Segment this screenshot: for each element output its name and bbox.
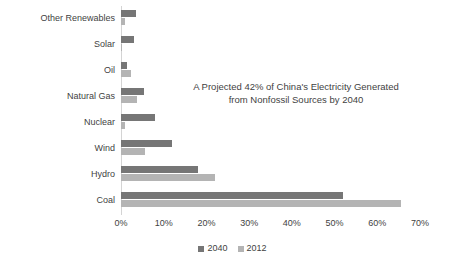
bar-2012 — [121, 96, 137, 103]
category-label: Nuclear — [0, 117, 115, 128]
bar-chart: Other Renewables Solar Oil Natural Gas N… — [0, 0, 465, 266]
legend-item-2012: 2012 — [238, 243, 267, 254]
legend-label: 2040 — [207, 243, 227, 254]
bar-2012 — [121, 122, 125, 129]
x-tick-label: 0% — [114, 218, 127, 229]
category-label: Natural Gas — [0, 91, 115, 102]
legend-swatch-icon — [198, 246, 204, 252]
chart-legend: 2040 2012 — [0, 243, 465, 254]
category-label: Solar — [0, 39, 115, 50]
x-tick-label: 30% — [240, 218, 258, 229]
x-tick-label: 70% — [411, 218, 429, 229]
bar-2040 — [121, 88, 144, 95]
bar-2040 — [121, 192, 343, 199]
bar-2040 — [121, 114, 155, 121]
plot-area — [121, 6, 420, 214]
legend-swatch-icon — [238, 246, 244, 252]
category-label: Coal — [0, 195, 115, 206]
category-axis: Other Renewables Solar Oil Natural Gas N… — [0, 6, 115, 214]
bar-2040 — [121, 62, 127, 69]
category-label: Oil — [0, 65, 115, 76]
bar-2012 — [121, 70, 131, 77]
bar-2012 — [121, 148, 145, 155]
bar-2012 — [121, 174, 215, 181]
annotation-line-2: from Nonfossil Sources by 2040 — [178, 93, 414, 106]
x-tick-label: 10% — [155, 218, 173, 229]
x-tick-label: 40% — [283, 218, 301, 229]
category-label: Wind — [0, 143, 115, 154]
bar-2012 — [121, 200, 401, 207]
legend-label: 2012 — [247, 243, 267, 254]
bar-2012 — [121, 44, 122, 51]
legend-item-2040: 2040 — [198, 243, 227, 254]
x-tick-label: 50% — [326, 218, 344, 229]
x-tick-label: 20% — [197, 218, 215, 229]
annotation-line-1: A Projected 42% of China's Electricity G… — [178, 80, 414, 93]
chart-annotation: A Projected 42% of China's Electricity G… — [178, 80, 414, 106]
bar-2040 — [121, 10, 136, 17]
bar-2040 — [121, 36, 134, 43]
category-label: Hydro — [0, 169, 115, 180]
value-axis — [121, 215, 420, 216]
bar-2040 — [121, 140, 172, 147]
category-label: Other Renewables — [0, 13, 115, 24]
bar-2040 — [121, 166, 198, 173]
x-tick-label: 60% — [368, 218, 386, 229]
bar-2012 — [121, 18, 125, 25]
